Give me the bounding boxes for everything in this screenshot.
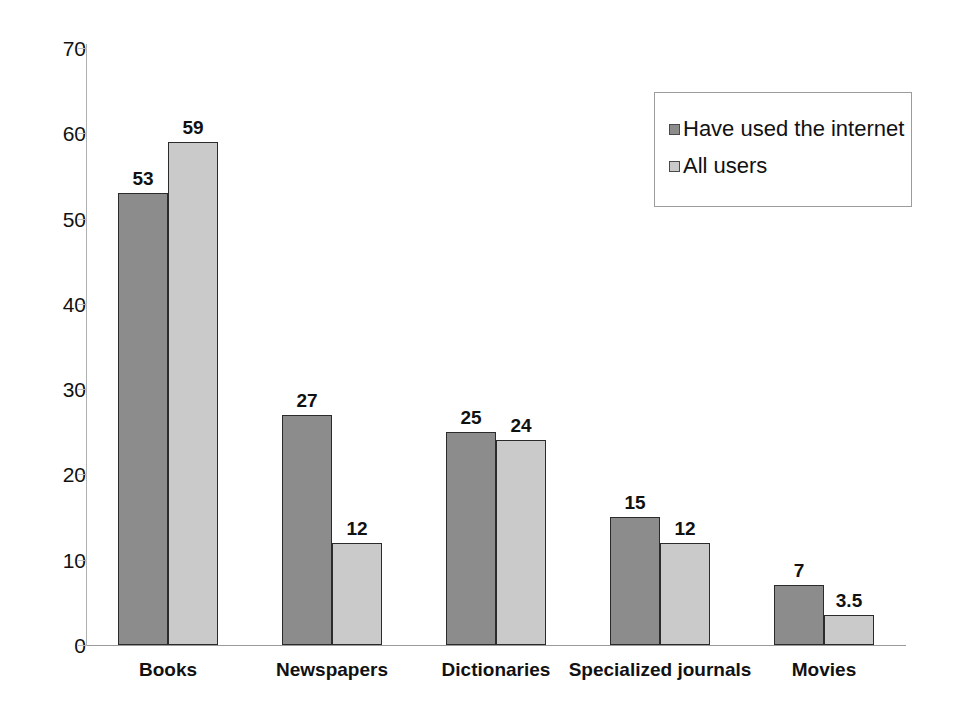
x-axis-category-label: Movies (712, 660, 936, 679)
bar (118, 193, 168, 645)
legend-swatch-icon (669, 124, 680, 135)
legend-item: All users (669, 155, 767, 177)
bar (446, 432, 496, 645)
legend-swatch-icon (669, 161, 680, 172)
bar-value-label: 15 (600, 493, 670, 512)
x-axis-line (86, 645, 906, 646)
bar (168, 142, 218, 645)
bar-value-label: 3.5 (814, 591, 884, 610)
legend-item-label: Have used the internet (683, 118, 904, 140)
bar-value-label: 12 (322, 519, 392, 538)
y-axis-tick-mark (78, 645, 87, 646)
bar-value-label: 59 (158, 118, 228, 137)
bar-value-label: 12 (650, 519, 720, 538)
bar (332, 543, 382, 645)
bar (496, 440, 546, 645)
bar-value-label: 24 (486, 416, 556, 435)
bar (660, 543, 710, 645)
legend-item: Have used the internet (669, 118, 904, 140)
bar (824, 615, 874, 645)
chart-legend: Have used the internet All users (654, 92, 912, 207)
bar-value-label: 27 (272, 391, 342, 410)
legend-item-label: All users (683, 155, 767, 177)
bar-value-label: 7 (764, 561, 834, 580)
y-axis-tick-group: 010203040506070 (0, 0, 86, 721)
bar-chart: 010203040506070 535927122524151273.5 Boo… (0, 0, 954, 721)
